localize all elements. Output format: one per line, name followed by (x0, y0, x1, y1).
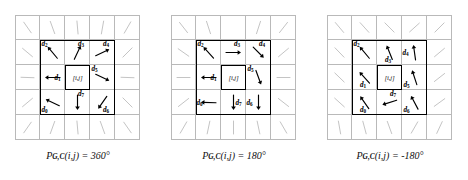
faint-gradient-stroke (40, 115, 65, 140)
faint-gradient-stroke (246, 115, 271, 140)
faint-gradient-stroke (271, 15, 296, 40)
faint-gradient-stroke (427, 15, 452, 40)
caption-subscript: G,C (208, 152, 220, 161)
faint-gradient-stroke (352, 115, 377, 140)
panel-caption: PG,C(i,j) = 360° (0, 150, 156, 161)
faint-gradient-stroke (271, 40, 296, 65)
vector-label-d5: d5 (92, 66, 98, 73)
faint-gradient-stroke (327, 115, 352, 140)
vector-label-d2: d2 (42, 41, 48, 48)
caption-subscript: G,C (52, 152, 64, 161)
caption-equals: = (389, 150, 401, 161)
faint-gradient-stroke (377, 15, 402, 40)
grid-cell (221, 15, 246, 40)
vector-label-d1: d1 (211, 75, 217, 82)
vector-label-d7: d7 (236, 100, 242, 107)
faint-gradient-stroke (377, 115, 402, 140)
center-pixel-label: [i,j] (65, 65, 90, 90)
panel-minus180: [i,j] d0d1d2d3d4d5d6d7 PG,C(i,j) = -180° (312, 0, 468, 180)
faint-gradient-stroke (196, 115, 221, 140)
vector-label-d1: d1 (55, 75, 61, 82)
faint-gradient-stroke (271, 115, 296, 140)
caption-argument: (i,j) (64, 150, 79, 161)
faint-gradient-stroke (15, 90, 40, 115)
faint-gradient-stroke (115, 115, 140, 140)
faint-gradient-stroke (65, 115, 90, 140)
vector-label-d3: d3 (78, 41, 84, 48)
panel-caption: PG,C(i,j) = 180° (156, 150, 312, 161)
panel-caption: PG,C(i,j) = -180° (312, 150, 468, 161)
caption-equals: = (79, 150, 91, 161)
faint-gradient-stroke (402, 15, 427, 40)
vector-label-d4: d4 (403, 50, 409, 57)
figure-three-panel-gradient-circulation: [i,j] d0d1d2d3d4d5d6d7 PG,C(i,j) = 360° … (0, 0, 468, 180)
vector-label-d2: d2 (198, 41, 204, 48)
faint-gradient-stroke (171, 65, 196, 90)
faint-gradient-stroke (90, 15, 115, 40)
panel-180: [i,j] d0d1d2d3d4d5d6d7 PG,C(i,j) = 180° (156, 0, 312, 180)
caption-subscript: G,C (363, 152, 375, 161)
faint-gradient-stroke (15, 15, 40, 40)
caption-value: 360° (91, 150, 110, 161)
faint-gradient-stroke (427, 115, 452, 140)
faint-gradient-stroke (427, 90, 452, 115)
faint-gradient-stroke (171, 40, 196, 65)
vector-label-d6: d6 (404, 107, 410, 114)
faint-gradient-stroke (427, 65, 452, 90)
faint-gradient-stroke (115, 90, 140, 115)
grid-5x5: [i,j] d0d1d2d3d4d5d6d7 (15, 15, 140, 140)
vector-label-d0: d0 (360, 107, 366, 114)
grid-5x5: [i,j] d0d1d2d3d4d5d6d7 (327, 15, 452, 140)
faint-gradient-stroke (171, 15, 196, 40)
vector-label-d5: d5 (404, 82, 410, 89)
vector-label-d0: d0 (42, 107, 48, 114)
faint-gradient-stroke (271, 90, 296, 115)
faint-gradient-stroke (271, 65, 296, 90)
vector-label-d4: d4 (103, 41, 109, 48)
faint-gradient-stroke (352, 15, 377, 40)
vector-label-d7: d7 (78, 91, 84, 98)
vector-label-d6: d6 (247, 100, 253, 107)
vector-label-d0: d0 (197, 100, 203, 107)
vector-label-d6: d6 (103, 107, 109, 114)
faint-gradient-stroke (90, 115, 115, 140)
faint-gradient-stroke (15, 115, 40, 140)
vector-label-d1: d1 (360, 82, 366, 89)
faint-gradient-stroke (327, 65, 352, 90)
vector-label-d4: d4 (259, 41, 265, 48)
faint-gradient-stroke (246, 15, 271, 40)
vector-label-d2: d2 (354, 41, 360, 48)
vector-label-d3: d3 (385, 57, 391, 64)
center-pixel-label: [i,j] (377, 65, 402, 90)
caption-equals: = (235, 150, 247, 161)
center-pixel-label: [i,j] (221, 65, 246, 90)
faint-gradient-stroke (40, 15, 65, 40)
faint-gradient-stroke (171, 115, 196, 140)
faint-gradient-stroke (327, 90, 352, 115)
gradient-vector-d1 (196, 65, 221, 90)
faint-gradient-stroke (115, 40, 140, 65)
caption-value: 180° (247, 150, 266, 161)
panel-360: [i,j] d0d1d2d3d4d5d6d7 PG,C(i,j) = 360° (0, 0, 156, 180)
faint-gradient-stroke (327, 40, 352, 65)
gradient-vector-d7 (221, 90, 246, 115)
caption-argument: (i,j) (220, 150, 235, 161)
faint-gradient-stroke (221, 115, 246, 140)
faint-gradient-stroke (115, 65, 140, 90)
faint-gradient-stroke (327, 15, 352, 40)
grid-5x5: [i,j] d0d1d2d3d4d5d6d7 (171, 15, 296, 140)
caption-value: -180° (401, 150, 423, 161)
faint-gradient-stroke (15, 65, 40, 90)
faint-gradient-stroke (427, 40, 452, 65)
faint-gradient-stroke (196, 15, 221, 40)
faint-gradient-stroke (171, 90, 196, 115)
caption-argument: (i,j) (375, 150, 390, 161)
vector-label-d5: d5 (248, 66, 254, 73)
faint-gradient-stroke (15, 40, 40, 65)
faint-gradient-stroke (65, 15, 90, 40)
gradient-vector-d1 (40, 65, 65, 90)
vector-label-d3: d3 (234, 41, 240, 48)
faint-gradient-stroke (402, 115, 427, 140)
vector-label-d7: d7 (390, 91, 396, 98)
faint-gradient-stroke (115, 15, 140, 40)
